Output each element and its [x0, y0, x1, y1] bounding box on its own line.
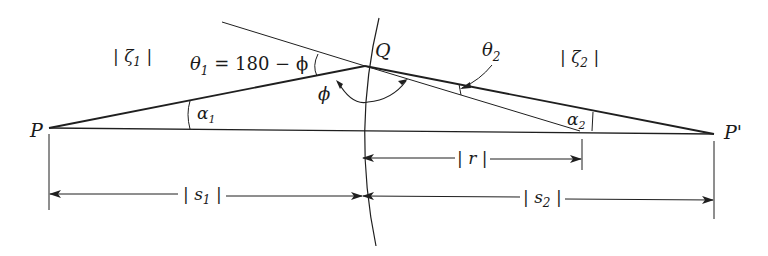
refraction-diagram: P P' Q | ζ1 | | ζ2 | θ1 = 180 − ϕ θ2 ϕ α…	[0, 0, 768, 256]
s2-dimension-right	[565, 199, 713, 200]
point-P-prime-label: P'	[723, 121, 742, 143]
phi-angle-arc	[338, 81, 406, 103]
s1-dimension-label: | s1 |	[183, 184, 222, 207]
medium-right-label: | ζ2 |	[560, 47, 599, 70]
refracted-ray	[365, 66, 714, 134]
s2-dimension-left	[363, 196, 520, 197]
theta2-angle-arc	[459, 84, 461, 95]
radius-line	[365, 66, 580, 131]
optical-axis	[49, 128, 714, 134]
medium-left-label: | ζ1 |	[113, 46, 152, 69]
alpha1-label: α1	[197, 103, 215, 126]
alpha2-angle-arc	[592, 112, 593, 131]
theta2-label: θ2	[482, 39, 500, 64]
phi-label: ϕ	[318, 83, 330, 104]
theta1-label: θ1 = 180 − ϕ	[190, 53, 308, 78]
alpha2-label: α2	[567, 109, 585, 132]
point-P-label: P	[29, 119, 44, 141]
s2-dimension-label: | s2 |	[523, 187, 562, 210]
theta1-angle-arc	[315, 54, 318, 76]
alpha1-angle-arc	[188, 101, 190, 129]
point-Q-label: Q	[375, 39, 391, 61]
r-dimension-label: | r |	[457, 148, 487, 168]
